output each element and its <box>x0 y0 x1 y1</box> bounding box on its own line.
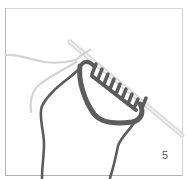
knitting-illustration <box>0 0 187 179</box>
light-yarn-tail <box>6 50 90 112</box>
dark-yarn-stitches <box>41 62 146 178</box>
step-number: 5 <box>162 150 168 161</box>
